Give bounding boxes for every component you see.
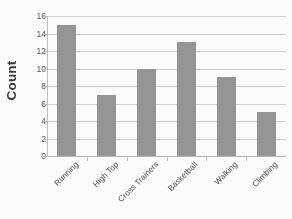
x-axis-tick-label-text: Basketball [167, 160, 200, 193]
y-axis-tick-mark [43, 34, 47, 35]
x-axis-tick-label-text: Running [52, 160, 80, 188]
y-axis-tick-mark [43, 69, 47, 70]
bar [257, 112, 276, 156]
bar [57, 25, 76, 156]
y-axis-title: Count [0, 0, 24, 160]
y-axis-tick-mark [43, 121, 47, 122]
y-axis-title-label: Count [5, 60, 20, 100]
x-axis-tick-label-text: Climbing [251, 160, 280, 189]
bar-chart: Count 0246810121416 RunningHigh TopCross… [0, 0, 292, 219]
x-axis-tick-labels: RunningHigh TopCross TrainersBasketballW… [0, 160, 292, 219]
bar [97, 95, 116, 156]
bars-group [47, 16, 286, 157]
y-axis-tick-mark [43, 104, 47, 105]
y-axis-tick-mark [43, 16, 47, 17]
x-axis-tick-label-text: High Top [91, 160, 120, 189]
x-axis-tick-label-text: Walking [213, 160, 240, 187]
y-axis-tick-mark [43, 51, 47, 52]
y-axis-tick-mark [43, 86, 47, 87]
y-axis-tick-mark [43, 156, 47, 157]
y-axis-tick-mark [43, 139, 47, 140]
x-axis-tick-label-text: Cross Trainers [116, 160, 160, 204]
